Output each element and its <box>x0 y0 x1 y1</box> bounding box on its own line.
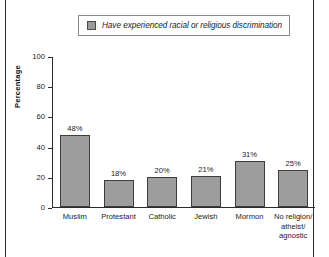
bar-value-label: 48% <box>60 124 90 133</box>
bar-slot: 25%No religion/atheist/agnostic <box>278 57 308 207</box>
y-tick-label: 40 <box>37 143 45 152</box>
y-tick-label: 100 <box>32 52 45 61</box>
bar-slot: 18%Protestant <box>104 57 134 207</box>
bar-slot: 31%Mormon <box>235 57 265 207</box>
x-axis-line <box>52 207 315 208</box>
bar-group: 48%Muslim18%Protestant20%Catholic21%Jewi… <box>53 57 315 207</box>
legend-entry: Have experienced racial or religious dis… <box>79 16 289 35</box>
legend-label: Have experienced racial or religious dis… <box>102 21 282 30</box>
plot-area: 0 20 40 60 80 100 48%Muslim18%Protestant… <box>52 57 315 208</box>
y-tick-label: 0 <box>41 203 45 212</box>
bar[interactable] <box>235 161 265 208</box>
chart-figure: Have experienced racial or religious dis… <box>0 0 329 257</box>
chart-legend: Have experienced racial or religious dis… <box>78 15 290 36</box>
bar-slot: 48%Muslim <box>60 57 90 207</box>
bar-value-label: 25% <box>278 159 308 168</box>
legend-swatch-icon <box>87 21 96 30</box>
bar[interactable] <box>147 177 177 207</box>
bar[interactable] <box>278 170 308 208</box>
bar-value-label: 18% <box>104 169 134 178</box>
bar[interactable] <box>191 176 221 208</box>
bar[interactable] <box>60 135 90 207</box>
bar-value-label: 20% <box>147 166 177 175</box>
y-tick-label: 20 <box>37 173 45 182</box>
bar-value-label: 21% <box>191 165 221 174</box>
y-axis-title: Percentage <box>13 65 22 108</box>
bar-value-label: 31% <box>235 150 265 159</box>
y-tick-label: 80 <box>37 82 45 91</box>
bar[interactable] <box>104 180 134 207</box>
bar-slot: 20%Catholic <box>147 57 177 207</box>
frame-left-rule <box>5 0 6 257</box>
x-axis-category-label: No religion/atheist/agnostic <box>262 212 324 241</box>
y-tick-label: 60 <box>37 112 45 121</box>
bar-slot: 21%Jewish <box>191 57 221 207</box>
